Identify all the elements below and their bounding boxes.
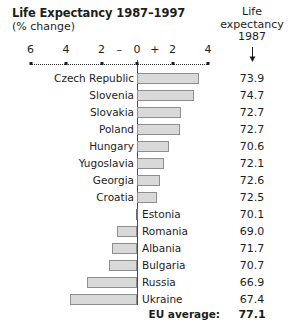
x-axis-line [31, 64, 209, 65]
x-tick-label-2: 2 [98, 43, 105, 56]
bar [136, 209, 138, 220]
country-label: Georgia [93, 173, 134, 188]
life-expectancy-value: 67.4 [218, 292, 286, 307]
table-row: Yugoslavia72.1 [0, 155, 288, 172]
country-label: Albania [142, 241, 181, 256]
table-row: Ukraine67.4 [0, 291, 288, 308]
table-row: Czech Republic73.9 [0, 70, 288, 87]
table-row: Slovenia74.7 [0, 87, 288, 104]
chart-subtitle: (% change) [12, 20, 75, 34]
x-tick-label-5: + [150, 43, 159, 56]
life-expectancy-value: 72.5 [218, 190, 286, 205]
bar [137, 124, 180, 135]
bar [70, 294, 137, 305]
table-row: Bulgaria70.7 [0, 257, 288, 274]
table-row: Georgia72.6 [0, 172, 288, 189]
country-label: Slovakia [90, 105, 134, 120]
life-expectancy-chart: Life Expectancy 1987–1997 (% change) Lif… [0, 0, 288, 328]
bar [109, 260, 137, 271]
country-label: Ukraine [142, 292, 183, 307]
bar-rows: Czech Republic73.9Slovenia74.7Slovakia72… [0, 70, 288, 308]
life-expectancy-value: 72.7 [218, 122, 286, 137]
table-row: Russia66.9 [0, 274, 288, 291]
x-tick-mark-2 [100, 62, 103, 65]
country-label: Croatia [96, 190, 134, 205]
country-label: Hungary [89, 139, 134, 154]
x-tick-label-6: 2 [169, 43, 176, 56]
bar [137, 73, 199, 84]
bar [137, 158, 164, 169]
bar [112, 243, 137, 254]
table-row: Croatia72.5 [0, 189, 288, 206]
table-row: Poland72.7 [0, 121, 288, 138]
country-label: Russia [142, 275, 176, 290]
table-row: Estonia70.1 [0, 206, 288, 223]
bar [137, 90, 194, 101]
x-tick-label-0: 6 [27, 43, 34, 56]
life-expectancy-value: 72.7 [218, 105, 286, 120]
life-expectancy-value: 72.6 [218, 173, 286, 188]
country-label: Poland [99, 122, 134, 137]
bar [137, 192, 157, 203]
table-row: Albania71.7 [0, 240, 288, 257]
x-tick-label-1: 4 [63, 43, 70, 56]
country-label: Estonia [142, 207, 181, 222]
eu-average-label: EU average: [148, 307, 220, 322]
country-label: Romania [142, 224, 188, 239]
life-expectancy-value: 70.6 [218, 139, 286, 154]
x-tick-label-3: – [117, 43, 123, 56]
life-expectancy-value: 69.0 [218, 224, 286, 239]
life-expectancy-value: 70.7 [218, 258, 286, 273]
life-expectancy-value: 72.1 [218, 156, 286, 171]
life-expectancy-value: 74.7 [218, 88, 286, 103]
x-tick-mark-4 [171, 62, 174, 65]
x-tick-mark-1 [65, 62, 68, 65]
x-tick-mark-0 [29, 62, 32, 65]
country-label: Bulgaria [142, 258, 186, 273]
eu-average-row: EU average: 77.1 [0, 307, 288, 323]
bar [137, 175, 160, 186]
bar [137, 141, 169, 152]
life-expectancy-value: 73.9 [218, 71, 286, 86]
value-column-header-line1: Life [218, 6, 286, 19]
bar [137, 107, 181, 118]
table-row: Romania69.0 [0, 223, 288, 240]
life-expectancy-value: 66.9 [218, 275, 286, 290]
country-label: Slovenia [89, 88, 134, 103]
bar [117, 226, 137, 237]
life-expectancy-value: 70.1 [218, 207, 286, 222]
life-expectancy-value: 71.7 [218, 241, 286, 256]
value-column-header: Life expectancy 1987 [218, 6, 286, 44]
x-tick-label-4: 0 [134, 43, 141, 56]
x-tick-label-7: 4 [205, 43, 212, 56]
bar [87, 277, 137, 288]
table-row: Slovakia72.7 [0, 104, 288, 121]
country-label: Yugoslavia [79, 156, 134, 171]
country-label: Czech Republic [54, 71, 134, 86]
x-axis-tick-labels: 642–0+24 [0, 43, 230, 56]
table-row: Hungary70.6 [0, 138, 288, 155]
x-tick-mark-5 [207, 62, 210, 65]
x-tick-mark-3 [136, 62, 139, 65]
value-column-header-line3: 1987 [218, 31, 286, 44]
eu-average-value: 77.1 [218, 307, 286, 322]
chart-title: Life Expectancy 1987–1997 [12, 6, 185, 20]
